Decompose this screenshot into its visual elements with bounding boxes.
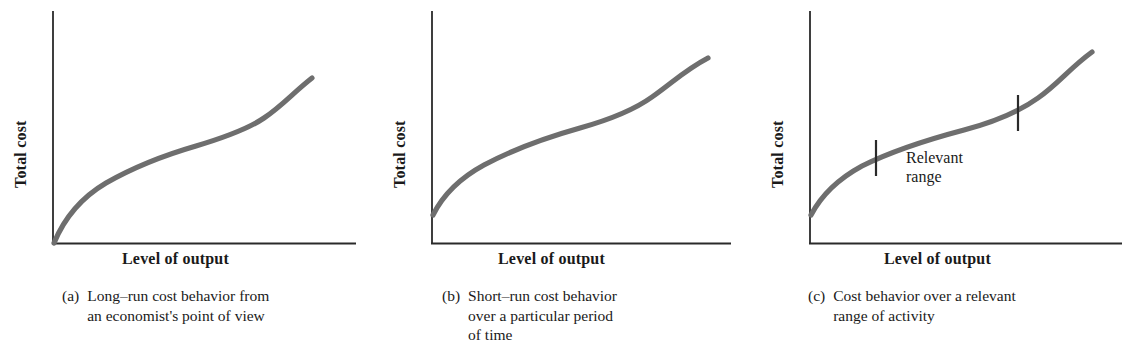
panel-a-caption: (a) Long–run cost behavior from an econo…	[62, 286, 362, 325]
panel-b-caption-tag: (b)	[442, 286, 460, 306]
panel-b: Total cost Level of output (b) Short–run…	[380, 0, 760, 363]
panel-b-caption: (b) Short–run cost behavior over a parti…	[442, 286, 742, 345]
panel-b-caption-text: Short–run cost behavior over a particula…	[468, 286, 617, 345]
panel-c-x-axis-label: Level of output	[884, 250, 991, 268]
panel-c-caption-text: Cost behavior over a relevant range of a…	[833, 286, 1016, 325]
panel-a: Total cost Level of output (a) Long–run …	[0, 0, 380, 363]
panel-c-caption: (c) Cost behavior over a relevant range …	[808, 286, 1118, 325]
panel-c-cost-curve	[811, 52, 1092, 215]
panel-a-caption-text: Long–run cost behavior from an economist…	[87, 286, 269, 325]
panel-a-caption-tag: (a)	[62, 286, 79, 306]
panel-a-x-axis-label: Level of output	[122, 250, 229, 268]
panel-b-y-axis-label: Total cost	[391, 120, 409, 188]
panel-b-x-axis-label: Level of output	[498, 250, 605, 268]
panel-b-plot	[380, 0, 760, 260]
panel-c-caption-tag: (c)	[808, 286, 825, 306]
panel-c-y-axis-label: Total cost	[769, 120, 787, 188]
panel-c-plot	[758, 0, 1122, 260]
panel-b-cost-curve	[433, 58, 708, 215]
panel-a-cost-curve	[54, 78, 312, 243]
panel-c: Total cost Relevant range Level of outpu…	[758, 0, 1122, 363]
figure-page: Total cost Level of output (a) Long–run …	[0, 0, 1122, 363]
panel-a-plot	[0, 0, 380, 260]
panel-c-relevant-range-annotation: Relevant range	[906, 148, 963, 186]
panel-a-y-axis-label: Total cost	[12, 120, 30, 188]
